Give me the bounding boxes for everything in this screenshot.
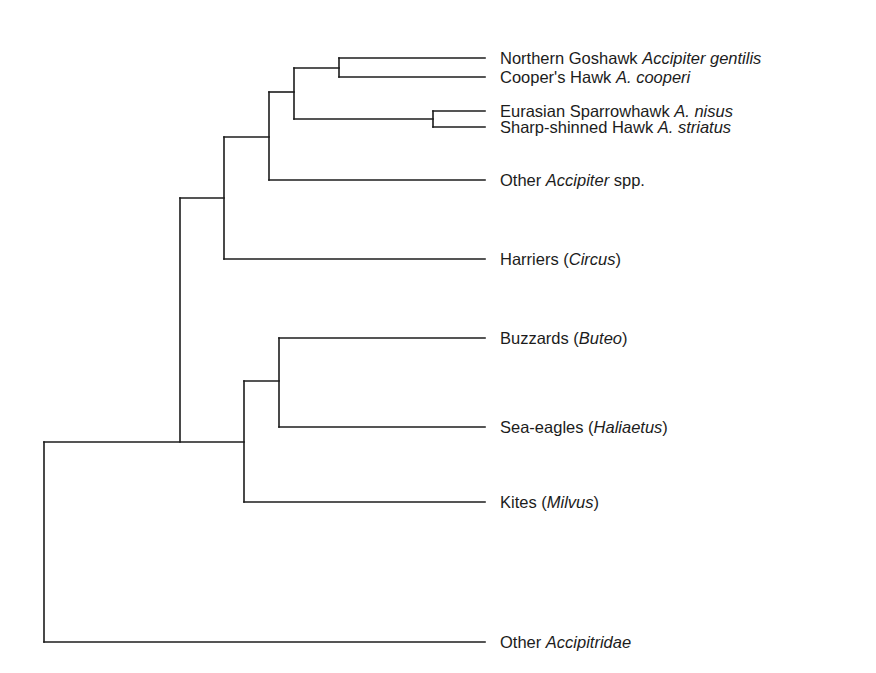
scientific-name: Haliaetus [594, 418, 663, 436]
leaf-label-kites: Kites (Milvus) [500, 492, 599, 512]
common-name: Kites ( [500, 493, 547, 511]
scientific-name: A. striatus [658, 118, 731, 136]
label-suffix: spp. [609, 171, 645, 189]
label-suffix: ) [594, 493, 600, 511]
label-suffix: ) [622, 329, 628, 347]
leaf-label-sharp-shinned: Sharp-shinned Hawk A. striatus [500, 117, 731, 137]
scientific-name: Accipitridae [546, 633, 631, 651]
label-suffix: ) [616, 250, 622, 268]
common-name: Cooper's Hawk [500, 68, 616, 86]
common-name: Northern Goshawk [500, 49, 642, 67]
phylogenetic-tree [0, 0, 876, 673]
leaf-label-coopers: Cooper's Hawk A. cooperi [500, 67, 690, 87]
leaf-label-sea-eagles: Sea-eagles (Haliaetus) [500, 417, 668, 437]
scientific-name: A. cooperi [616, 68, 690, 86]
scientific-name: Accipiter [546, 171, 609, 189]
scientific-name: Circus [569, 250, 616, 268]
leaf-label-other-accipiter: Other Accipiter spp. [500, 170, 645, 190]
common-name: Other [500, 633, 546, 651]
common-name: Other [500, 171, 546, 189]
common-name: Buzzards ( [500, 329, 579, 347]
common-name: Sea-eagles ( [500, 418, 594, 436]
tree-branches [44, 58, 485, 642]
leaf-label-goshawk: Northern Goshawk Accipiter gentilis [500, 48, 761, 68]
scientific-name: Accipiter gentilis [642, 49, 761, 67]
leaf-label-harriers: Harriers (Circus) [500, 249, 621, 269]
common-name: Harriers ( [500, 250, 569, 268]
scientific-name: Buteo [579, 329, 622, 347]
scientific-name: Milvus [547, 493, 594, 511]
leaf-label-buzzards: Buzzards (Buteo) [500, 328, 627, 348]
leaf-label-other-accipitridae: Other Accipitridae [500, 632, 631, 652]
common-name: Sharp-shinned Hawk [500, 118, 658, 136]
label-suffix: ) [662, 418, 668, 436]
